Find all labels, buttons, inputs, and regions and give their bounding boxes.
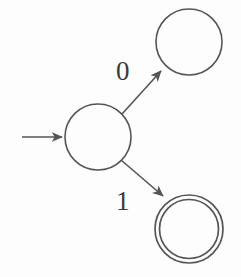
automaton-canvas [0, 0, 241, 277]
state-top-circle[interactable] [156, 9, 222, 75]
state-accepting-outer-circle[interactable] [155, 195, 223, 263]
state-accepting-inner-circle [160, 200, 219, 259]
automaton-diagram: 0 1 [0, 0, 241, 277]
transition-label-zero: 0 [116, 58, 130, 85]
transition-label-one: 1 [116, 188, 130, 215]
